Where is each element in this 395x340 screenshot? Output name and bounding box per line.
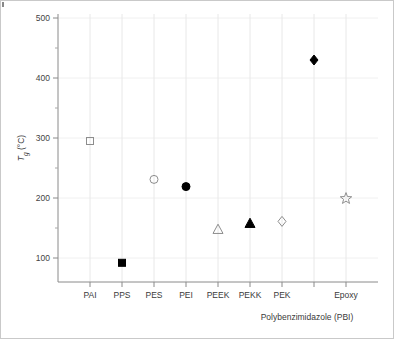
data-point-pekk[interactable] (245, 218, 255, 227)
x-tick-label: PEK (273, 290, 290, 300)
scatter-plot-canvas: 100200300400500PAIPPSPESPEIPEEKPEKKPEKEp… (0, 0, 395, 340)
corner-tick-mark (2, 2, 4, 7)
y-axis-title-text: Tg (°C) (16, 135, 30, 162)
data-point-pbi[interactable] (310, 55, 318, 65)
x-tick-label: PEI (179, 290, 193, 300)
y-tick-label: 500 (36, 13, 50, 23)
x-tick-label: PEKK (239, 290, 262, 300)
data-point-pei[interactable] (182, 183, 190, 191)
y-tick-label: 200 (36, 193, 50, 203)
pbi-annotation-label: Polybenzimidazole (PBI) (261, 312, 354, 322)
y-tick-label: 300 (36, 133, 50, 143)
y-tick-label: 100 (36, 253, 50, 263)
x-tick-label: PES (145, 290, 162, 300)
data-point-pps[interactable] (119, 259, 126, 266)
x-tick-label: PAI (83, 290, 96, 300)
x-tick-label: PEEK (207, 290, 230, 300)
y-tick-label: 400 (36, 73, 50, 83)
chart-figure: 100200300400500PAIPPSPESPEIPEEKPEKKPEKEp… (0, 0, 395, 340)
x-tick-label: Epoxy (334, 290, 358, 300)
y-axis-title: Tg (°C) (16, 135, 30, 162)
x-tick-label: PPS (113, 290, 130, 300)
